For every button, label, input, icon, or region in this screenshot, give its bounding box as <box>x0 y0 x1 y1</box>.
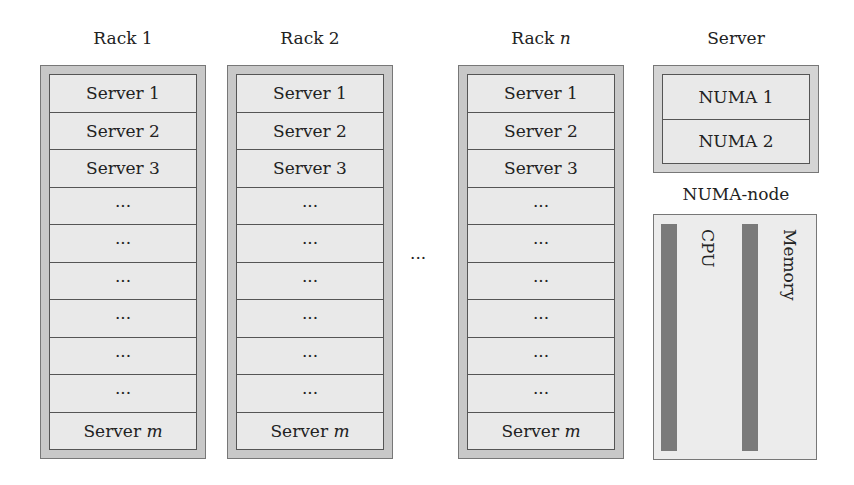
numa-1: NUMA 1 <box>663 75 809 120</box>
ellipsis-slot: ··· <box>50 338 196 376</box>
ellipsis-slot: ··· <box>50 375 196 413</box>
memory-bar <box>742 224 758 451</box>
ellipsis-slot: ··· <box>237 225 383 263</box>
numa-2: NUMA 2 <box>663 120 809 164</box>
memory-label: Memory <box>780 229 800 301</box>
ellipsis-slot: ··· <box>237 375 383 413</box>
server-slot: Server 1 <box>50 75 196 113</box>
server-title: Server <box>653 28 819 48</box>
server-diagram: NUMA 1 NUMA 2 <box>653 65 819 173</box>
racks-ellipsis: ··· <box>410 248 426 268</box>
server-slot: Server 3 <box>468 150 614 188</box>
ellipsis-slot: ··· <box>50 300 196 338</box>
server-slot-m: Server m <box>468 413 614 450</box>
server-slot: Server 1 <box>468 75 614 113</box>
rack-n: Server 1 Server 2 Server 3 ··· ··· ··· ·… <box>458 65 624 459</box>
numa-node-title: NUMA-node <box>653 184 819 204</box>
ellipsis-slot: ··· <box>468 263 614 301</box>
ellipsis-slot: ··· <box>50 188 196 226</box>
rack-n-title: Rack n <box>458 28 624 48</box>
ellipsis-slot: ··· <box>237 300 383 338</box>
ellipsis-slot: ··· <box>468 300 614 338</box>
ellipsis-slot: ··· <box>237 263 383 301</box>
rack-2-title: Rack 2 <box>227 28 393 48</box>
server-slot: Server 2 <box>237 113 383 151</box>
cpu-bar <box>661 224 677 451</box>
rack-1: Server 1 Server 2 Server 3 ··· ··· ··· ·… <box>40 65 206 459</box>
server-slot: Server 3 <box>50 150 196 188</box>
server-slot-m: Server m <box>50 413 196 450</box>
server-slot: Server 2 <box>50 113 196 151</box>
ellipsis-slot: ··· <box>468 188 614 226</box>
rack-1-title: Rack 1 <box>40 28 206 48</box>
ellipsis-slot: ··· <box>237 338 383 376</box>
server-slot: Server 2 <box>468 113 614 151</box>
server-slot: Server 3 <box>237 150 383 188</box>
ellipsis-slot: ··· <box>468 338 614 376</box>
ellipsis-slot: ··· <box>237 188 383 226</box>
rack-2: Server 1 Server 2 Server 3 ··· ··· ··· ·… <box>227 65 393 459</box>
ellipsis-slot: ··· <box>468 225 614 263</box>
cpu-label: CPU <box>698 229 718 267</box>
ellipsis-slot: ··· <box>468 375 614 413</box>
numa-node-diagram: CPU Memory <box>653 214 817 460</box>
server-slot-m: Server m <box>237 413 383 450</box>
server-slot: Server 1 <box>237 75 383 113</box>
ellipsis-slot: ··· <box>50 263 196 301</box>
ellipsis-slot: ··· <box>50 225 196 263</box>
